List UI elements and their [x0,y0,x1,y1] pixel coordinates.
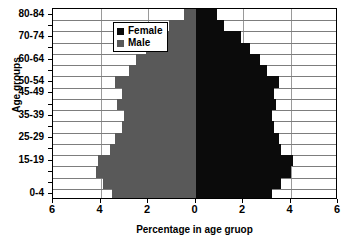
bar-female [196,189,272,199]
bar-female [196,121,274,132]
bar-male [136,54,195,65]
bar-male [103,178,196,189]
bar-female [196,20,225,31]
chart-legend: FemaleMale [113,22,168,52]
bar-row [53,9,336,20]
bar-row [53,178,336,189]
bar-female [196,133,279,144]
bar-male [98,155,195,166]
bar-male [169,20,195,31]
bar-male [124,110,195,121]
legend-swatch-icon [117,28,124,35]
bar-female [196,110,272,121]
y-axis-tick-label: 35-39 [0,109,44,120]
legend-swatch-icon [117,40,124,47]
y-axis-tick-label: 15-19 [0,154,44,165]
bar-female [196,76,279,87]
legend-label: Female [128,26,162,36]
x-axis-tick-label: 6 [37,203,67,215]
bar-female [196,31,241,42]
bar-row [53,189,336,199]
legend-label: Male [128,38,150,48]
x-axis-tick-label: 2 [132,203,162,215]
bar-male [96,166,196,177]
bar-row [53,54,336,65]
x-axis-tick-label: 2 [227,203,257,215]
bar-row [53,155,336,166]
bar-male [122,88,196,99]
y-axis-tick-label: 70-74 [0,30,44,41]
bar-female [196,9,217,20]
bar-female [196,43,251,54]
y-axis-tick-label: 80-84 [0,8,44,19]
bar-female [196,144,282,155]
bar-female [196,155,293,166]
y-axis-tick-label: 0-4 [0,187,44,198]
bar-row [53,121,336,132]
bar-female [196,54,260,65]
bar-male [112,189,195,199]
bar-row [53,65,336,76]
bar-row [53,133,336,144]
bar-female [196,88,274,99]
bar-row [53,110,336,121]
bar-row [53,76,336,87]
bar-male [117,99,195,110]
bar-male [129,65,196,76]
bar-female [196,166,291,177]
legend-entry: Female [117,25,162,37]
bar-row [53,31,336,42]
bar-row [53,43,336,54]
bar-male [122,121,196,132]
legend-entry: Male [117,37,162,49]
bar-row [53,99,336,110]
y-axis-tick-label: 45-49 [0,86,44,97]
bar-row [53,166,336,177]
x-axis-title: Percentage in age gruop [52,224,337,235]
x-axis-tick-label: 4 [275,203,305,215]
bar-female [196,65,267,76]
x-axis-tick-label: 0 [180,203,210,215]
x-axis-tick-label: 6 [322,203,345,215]
bar-female [196,178,282,189]
y-axis-tick-label: 25-29 [0,131,44,142]
plot-area: FemaleMale [52,8,337,199]
bar-row [53,20,336,31]
bar-female [196,99,277,110]
bar-male [184,9,196,20]
bar-male [115,76,196,87]
x-axis-tick-label: 4 [85,203,115,215]
y-axis-tick-label: 50-54 [0,75,44,86]
y-axis-tick-label: 60-64 [0,53,44,64]
bar-row [53,144,336,155]
bar-row [53,88,336,99]
population-pyramid-chart: Age groups 0-415-1925-2935-3945-4950-546… [0,0,345,243]
bar-male [115,133,196,144]
bar-male [110,144,196,155]
